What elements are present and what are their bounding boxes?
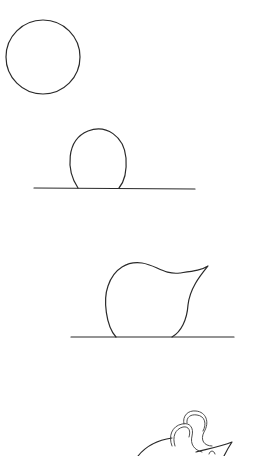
step-4-body-with-ears bbox=[138, 411, 232, 456]
step-3-body-with-snout bbox=[71, 263, 234, 337]
drawing-canvas bbox=[0, 0, 262, 456]
step-2-circle-on-ground bbox=[34, 129, 195, 189]
step-1-circle bbox=[6, 20, 80, 94]
